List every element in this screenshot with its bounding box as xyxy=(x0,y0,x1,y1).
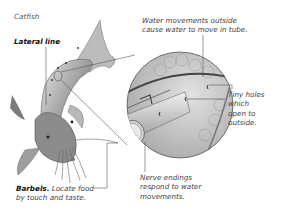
label-line: open to xyxy=(228,109,265,118)
label-water-movements: Water movements outside cause water to m… xyxy=(142,16,247,35)
label-line: by touch and taste. xyxy=(16,193,94,202)
label-barbels: Barbels. Locate food by touch and taste. xyxy=(16,184,94,203)
label-line: outside. xyxy=(228,118,265,127)
label-tiny-holes: Tiny holes which open to outside. xyxy=(228,90,265,128)
label-lateral-line: Lateral line xyxy=(14,37,60,46)
label-line: Barbels. Locate food xyxy=(16,184,94,193)
label-line: respond to water xyxy=(140,182,201,191)
label-nerve-endings: Nerve endings respond to water movements… xyxy=(140,173,201,201)
barbels-desc: Locate food xyxy=(52,184,94,193)
label-line: Water movements outside xyxy=(142,16,247,25)
label-line: cause water to move in tube. xyxy=(142,25,247,34)
barbels-title: Barbels. xyxy=(16,184,49,193)
label-line: movements. xyxy=(140,192,201,201)
label-line: Nerve endings xyxy=(140,173,201,182)
diagram-title: Catfish xyxy=(14,12,39,21)
magnified-lateral-line xyxy=(118,52,233,158)
label-line: Tiny holes xyxy=(228,90,265,99)
label-line: which xyxy=(228,99,265,108)
